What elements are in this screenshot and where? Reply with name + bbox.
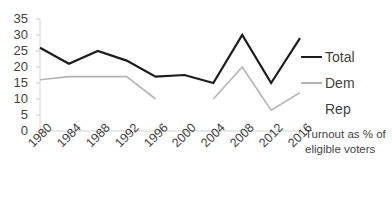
chart-container: 05101520253035 1980198419881992199620002… — [0, 0, 392, 206]
series-line-dem — [40, 77, 156, 99]
legend-line-swatch-rep-icon — [300, 103, 322, 115]
chart-annotation: Turnout as % of eligible voters — [305, 127, 391, 156]
y-axis-tick-label: 15 — [2, 76, 28, 89]
y-axis-tick-label: 30 — [2, 28, 28, 41]
legend-label-total: Total — [325, 50, 355, 64]
y-axis-tick-label: 35 — [2, 12, 28, 25]
series-line-dem — [213, 67, 300, 110]
chart-legend: Total Dem Rep — [300, 44, 392, 122]
y-axis-tick-label: 0 — [2, 124, 28, 137]
legend-line-swatch-dem-icon — [300, 77, 322, 89]
data-series-layer — [40, 35, 300, 110]
y-axis-tick-label: 25 — [2, 44, 28, 57]
legend-line-swatch-total-icon — [300, 51, 322, 63]
legend-label-rep: Rep — [325, 102, 351, 116]
y-axis-tick-label: 20 — [2, 60, 28, 73]
y-axis-tick-label: 10 — [2, 92, 28, 105]
legend-item-total: Total — [300, 44, 392, 70]
y-axis-tick-label: 5 — [2, 108, 28, 121]
y-axis-ticks — [36, 19, 40, 131]
legend-label-dem: Dem — [325, 76, 355, 90]
legend-item-rep: Rep — [300, 96, 392, 122]
legend-item-dem: Dem — [300, 70, 392, 96]
